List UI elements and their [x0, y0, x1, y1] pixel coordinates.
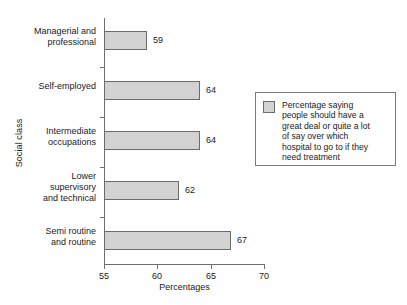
bar: [104, 181, 179, 200]
bar-value-label: 64: [206, 135, 216, 145]
legend-line: need treatment: [282, 152, 370, 162]
x-axis-tick: [157, 264, 158, 269]
legend-line: people should have a: [282, 110, 370, 120]
bar-value-label: 62: [185, 185, 195, 195]
x-axis-tick-label: 70: [249, 271, 279, 281]
x-axis-line: [104, 264, 265, 265]
category-label: Managerial and professional: [0, 26, 96, 48]
x-axis-tick-label: 65: [196, 271, 226, 281]
legend-line: great deal or quite a lot: [282, 121, 370, 131]
legend-line: Percentage saying: [282, 100, 370, 110]
legend-label: Percentage saying people should have a g…: [282, 100, 370, 162]
legend-line: of say over which: [282, 131, 370, 141]
x-axis-tick-label: 60: [142, 271, 172, 281]
legend-line: hospital to go to if they: [282, 142, 370, 152]
category-label: Self-employed: [0, 81, 96, 92]
y-axis-tick: [100, 217, 104, 218]
category-label: Semi routine and routine: [0, 226, 96, 248]
chart-legend: Percentage saying people should have a g…: [255, 92, 396, 166]
x-axis-tick: [104, 264, 105, 269]
plot-area: Managerial and professional 59 Self-empl…: [104, 18, 274, 264]
x-axis-tick-label: 55: [89, 271, 119, 281]
y-axis-tick: [100, 167, 104, 168]
y-axis-tick: [100, 117, 104, 118]
y-axis-tick: [100, 67, 104, 68]
bar-value-label: 67: [237, 235, 247, 245]
x-axis-tick: [264, 264, 265, 269]
x-axis-title: Percentages: [104, 282, 265, 292]
bar-value-label: 59: [153, 35, 163, 45]
bar: [104, 81, 200, 100]
category-label: Lower supervisory and technical: [0, 171, 96, 204]
bar: [104, 31, 147, 50]
bar-value-label: 64: [206, 85, 216, 95]
legend-swatch-icon: [263, 101, 275, 113]
bar-chart: Social class Managerial and professional…: [0, 0, 407, 305]
x-axis-tick: [211, 264, 212, 269]
bar: [104, 131, 200, 150]
category-label: Intermediate occupations: [0, 126, 96, 148]
bar: [104, 231, 231, 250]
